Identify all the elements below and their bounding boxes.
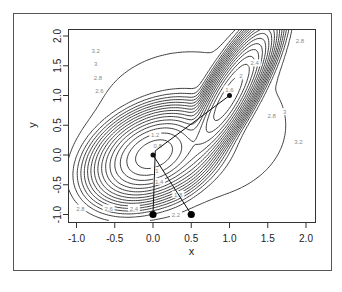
x-axis: -1.0-0.50.00.51.01.52.0: [68, 223, 314, 244]
contour-label: 2.6: [95, 88, 104, 94]
contour-label: 2.4: [130, 206, 139, 212]
x-tick-label: 0.5: [184, 233, 198, 244]
x-tick-label: 0.0: [146, 233, 160, 244]
y-tick-label: 0.5: [52, 118, 63, 132]
figure-frame: [14, 14, 332, 271]
contour-chart: 3.232.82.61.20.81.411.82.22.42.62.82.82.…: [0, 0, 342, 292]
contour-label: 2.8: [94, 75, 103, 81]
contour-label: 2.8: [267, 113, 276, 119]
x-tick-label: -0.5: [106, 233, 124, 244]
x-axis-label: x: [189, 245, 195, 257]
contour-label: 1.4: [155, 179, 164, 185]
start-point-marker: [188, 211, 195, 218]
contour-label: 2.6: [104, 206, 113, 212]
y-tick-label: 1.5: [52, 58, 63, 72]
contour-label: 2.2: [172, 212, 181, 218]
y-tick-label: 2.0: [52, 29, 63, 43]
y-tick-label: 1.0: [52, 88, 63, 102]
y-tick-label: 0.0: [52, 148, 63, 162]
y-axis-label: y: [26, 122, 38, 128]
start-point-marker: [149, 211, 156, 218]
contour-label: 2.8: [296, 38, 305, 44]
y-axis: -1.0-0.50.00.51.01.52.0: [52, 29, 68, 224]
minimum-marker: [151, 153, 156, 158]
contour-label: 2.4: [251, 60, 260, 66]
x-tick-label: -1.0: [68, 233, 86, 244]
contour-label: 1.2: [151, 132, 160, 138]
x-tick-label: 1.0: [223, 233, 237, 244]
contour-label: 3.2: [91, 48, 100, 54]
x-tick-label: 1.5: [261, 233, 275, 244]
minimum-marker: [227, 93, 232, 98]
contour-level-2.6: [81, 30, 284, 211]
y-tick-label: -1.0: [52, 205, 63, 223]
contour-label: 1.6: [225, 87, 234, 93]
contour-label: 3.2: [294, 139, 303, 145]
y-tick-label: -0.5: [52, 176, 63, 194]
contour-label: 2.8: [76, 206, 85, 212]
x-tick-label: 2.0: [299, 233, 313, 244]
